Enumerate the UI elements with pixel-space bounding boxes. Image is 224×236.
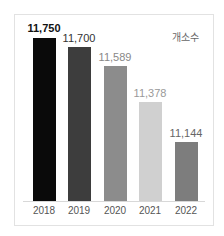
- bar-2022: [175, 142, 198, 201]
- value-label-2021: 11,378: [128, 87, 172, 99]
- bar-2020: [104, 66, 127, 201]
- bar-2021: [139, 102, 162, 201]
- value-label-2020: 11,589: [93, 51, 137, 63]
- x-tick-2019: 2019: [59, 205, 99, 216]
- value-label-2019: 11,700: [57, 32, 101, 44]
- bar-2019: [68, 47, 91, 201]
- x-axis-line: [23, 201, 205, 202]
- x-tick-2020: 2020: [95, 205, 135, 216]
- unit-label: 개소수: [172, 29, 199, 44]
- bar-2018: [33, 38, 56, 201]
- chart-frame: 개소수 11,750201811,700201911,589202011,378…: [14, 14, 214, 226]
- x-tick-2021: 2021: [130, 205, 170, 216]
- x-tick-2022: 2022: [166, 205, 206, 216]
- x-tick-2018: 2018: [24, 205, 64, 216]
- value-label-2022: 11,144: [164, 127, 208, 139]
